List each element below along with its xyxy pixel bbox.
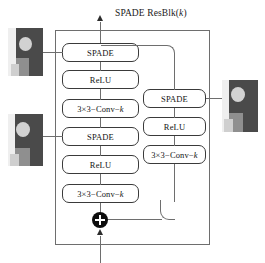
block-label: 3×3−Conv−: [151, 150, 194, 160]
block-label: ReLU: [90, 160, 111, 170]
input-arrowhead-icon: [97, 229, 103, 235]
block-conv-2[interactable]: 3×3−Conv−k: [62, 184, 139, 203]
block-spade-2[interactable]: SPADE: [62, 127, 139, 146]
skip-branch-tap-line: [101, 45, 164, 46]
diagram-title-close: ): [183, 8, 186, 18]
connector-r1-r2: [174, 108, 175, 118]
skip-branch-to-sum-line: [106, 219, 162, 220]
block-relu-skip[interactable]: ReLU: [143, 117, 206, 136]
block-conv-1[interactable]: 3×3−Conv−k: [62, 99, 139, 118]
thumbnail-image: [8, 28, 43, 76]
connector-l5-l6: [100, 174, 101, 185]
segmentation-map-right: [222, 80, 258, 132]
connector-r2-r3: [174, 136, 175, 146]
block-label: SPADE: [87, 132, 114, 142]
block-label-param: k: [120, 189, 124, 199]
block-label: SPADE: [161, 94, 188, 104]
block-label-param: k: [194, 150, 198, 160]
segmentation-map-bottom-left: [8, 114, 43, 166]
input-line: [100, 236, 101, 263]
feed-line-spade-2: [43, 136, 63, 137]
diagram-title: SPADE ResBlk(k): [115, 8, 245, 18]
diagram-canvas: SPADE ResBlk(k) SPADE ReLU 3×3−Conv−k SP…: [0, 0, 265, 263]
skip-branch-corner-bottom: [160, 200, 175, 220]
block-label: 3×3−Conv−: [77, 189, 120, 199]
output-arrowhead-icon: [97, 15, 103, 21]
skip-branch-down-line: [174, 57, 175, 90]
thumbnail-image: [8, 114, 43, 166]
block-relu-2[interactable]: ReLU: [62, 155, 139, 174]
block-label: ReLU: [90, 75, 111, 85]
skip-branch-return-line: [174, 164, 175, 202]
block-spade-skip[interactable]: SPADE: [143, 89, 206, 108]
block-label: ReLU: [164, 122, 185, 132]
diagram-title-text: SPADE ResBlk(: [115, 8, 179, 18]
block-relu-1[interactable]: ReLU: [62, 70, 139, 89]
segmentation-map-top-left: [8, 28, 43, 76]
block-label: SPADE: [87, 48, 114, 58]
output-line: [100, 22, 101, 44]
block-label: 3×3−Conv−: [77, 104, 120, 114]
thumbnail-image: [222, 80, 258, 132]
sum-node[interactable]: [92, 212, 108, 228]
feed-line-spade-skip: [206, 98, 223, 99]
connector-l3-l4: [100, 118, 101, 128]
block-label-param: k: [120, 104, 124, 114]
connector-l4-l5: [100, 146, 101, 156]
feed-line-spade-1: [43, 52, 63, 53]
connector-l2-l3: [100, 89, 101, 100]
connector-l1-l2: [100, 62, 101, 71]
block-conv-skip[interactable]: 3×3−Conv−k: [143, 145, 206, 164]
